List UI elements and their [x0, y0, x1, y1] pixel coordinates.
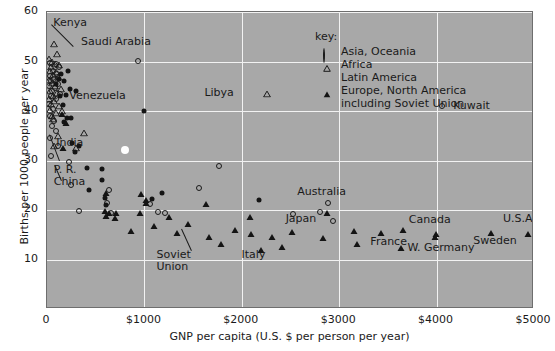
data-point	[53, 51, 61, 58]
annotation-japan: Japan	[286, 213, 317, 225]
annotation-label-line: Union	[156, 260, 188, 273]
data-point	[48, 153, 54, 159]
data-point	[62, 79, 67, 84]
legend-entry-europe-north-america: Europe, North America including Soviet U…	[315, 84, 466, 110]
annotation-france: France	[370, 236, 407, 248]
plot-area: KenyaSaudi ArabiaLibyaVenezuelaIndiaP. R…	[46, 11, 533, 308]
data-point	[399, 227, 407, 234]
data-point	[99, 178, 104, 183]
data-point	[69, 116, 74, 121]
data-point	[196, 185, 202, 191]
annotation-label-line: Japan	[286, 212, 317, 225]
data-point	[53, 81, 58, 86]
data-point	[155, 209, 161, 215]
data-point	[63, 93, 68, 98]
data-point	[72, 149, 77, 154]
annotation-label-line: Australia	[297, 185, 346, 198]
data-point	[150, 223, 158, 230]
data-point	[268, 233, 276, 240]
data-point	[58, 94, 63, 99]
data-point	[65, 69, 70, 74]
gridline-horizontal	[47, 260, 532, 261]
legend-label-line2: including Soviet Union	[341, 97, 464, 110]
data-point	[263, 90, 271, 97]
chart-legend: key: Asia, Oceania Africa Latin America …	[315, 30, 466, 110]
x-axis-label: GNP per capita (U.S. $ per person per ye…	[46, 330, 533, 343]
legend-label: Asia, Oceania	[341, 45, 416, 58]
annotation-sweden: Sweden	[473, 235, 516, 247]
data-point	[216, 163, 222, 169]
gridline-vertical	[242, 12, 243, 307]
data-point	[55, 62, 63, 69]
data-point	[150, 197, 155, 202]
data-point	[524, 230, 532, 237]
gridline-horizontal	[47, 12, 532, 13]
annotation-canada: Canada	[409, 214, 451, 226]
data-point	[184, 220, 192, 227]
annotation-label-line: Canada	[409, 213, 451, 226]
annotation-u-s-a: U.S.A.	[503, 213, 533, 225]
x-tick-label: 0	[6, 313, 86, 326]
annotation-libya: Libya	[204, 87, 233, 99]
triangle-filled-icon	[323, 88, 331, 101]
annotation-label-line: Italy	[242, 248, 266, 261]
data-point	[60, 102, 65, 107]
annotation-italy: Italy	[242, 249, 266, 261]
gridline-horizontal	[47, 161, 532, 162]
data-point	[135, 58, 141, 64]
data-point	[102, 189, 110, 196]
data-point	[86, 188, 91, 193]
legend-entry-africa: Africa	[315, 58, 466, 71]
x-tick-label: $3000	[298, 313, 378, 326]
annotation-label-line: Kenya	[53, 16, 87, 29]
data-point	[353, 240, 361, 247]
data-point	[127, 227, 135, 234]
data-point	[288, 228, 296, 235]
data-point	[350, 227, 358, 234]
data-point	[56, 76, 61, 81]
annotation-w-germany: W. Germany	[407, 242, 474, 254]
y-tick-label: 60	[8, 4, 38, 17]
legend-entry-latin-america: Latin America	[315, 71, 466, 84]
annotation-australia: Australia	[297, 186, 346, 198]
data-point	[231, 226, 239, 233]
data-point	[159, 190, 164, 195]
data-point	[205, 234, 213, 241]
data-point	[323, 209, 331, 216]
data-point	[142, 109, 147, 114]
data-point	[330, 218, 336, 224]
data-point	[431, 233, 439, 240]
gridline-vertical	[144, 12, 145, 307]
legend-label: Latin America	[341, 71, 417, 84]
data-point	[49, 115, 57, 122]
legend-label: Africa	[341, 58, 372, 71]
annotation-label-line: India	[56, 136, 83, 149]
data-point	[246, 213, 254, 220]
annotation-venezuela: Venezuela	[69, 90, 126, 102]
world-average-marker	[121, 146, 129, 154]
annotation-label-line: Saudi Arabia	[81, 35, 151, 48]
annotation-soviet-union: SovietUnion	[156, 249, 190, 273]
data-point	[62, 120, 70, 127]
data-point	[99, 166, 104, 171]
annotation-india: India	[56, 137, 83, 149]
data-point	[217, 240, 225, 247]
annotation-label-line: U.S.A.	[503, 212, 533, 225]
y-axis-label: Births per 1000 people per year	[18, 47, 31, 267]
data-point	[202, 201, 210, 208]
legend-title: key:	[315, 30, 466, 43]
data-point	[111, 215, 119, 222]
data-point	[319, 235, 327, 242]
x-tick-label: $1000	[103, 313, 183, 326]
annotation-kenya: Kenya	[53, 17, 87, 29]
legend-label-line1: Europe, North America	[341, 84, 466, 97]
data-point	[136, 209, 144, 216]
data-point	[165, 214, 173, 221]
data-point	[142, 200, 150, 207]
data-point	[102, 212, 110, 219]
annotation-label-line: W. Germany	[407, 241, 474, 254]
data-point	[173, 229, 181, 236]
data-point	[50, 41, 58, 48]
annotation-label-line: Venezuela	[69, 89, 126, 102]
